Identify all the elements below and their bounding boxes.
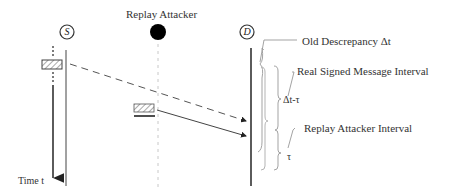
delta-minus-tau-label: Δt-τ xyxy=(283,95,300,105)
real-interval-label: Real Signed Message Interval xyxy=(297,66,429,77)
real-interval-leader xyxy=(288,72,294,96)
source-message-box xyxy=(42,60,62,69)
destination-label: D xyxy=(240,27,254,37)
attacker-dot-icon xyxy=(150,24,166,40)
inner-interval-brace xyxy=(274,66,281,170)
replay-message-arrow xyxy=(157,110,246,136)
attacker-label: Replay Attacker xyxy=(126,9,197,20)
replay-interval-leader xyxy=(288,128,295,148)
time-axis-label: Time t xyxy=(18,176,44,186)
tau-label: τ xyxy=(287,152,291,162)
old-discrepancy-brace xyxy=(258,48,263,152)
attacker-message-box xyxy=(134,104,154,112)
source-label: S xyxy=(60,27,74,37)
old-discrepancy-label: Old Descrepancy Δt xyxy=(302,36,391,47)
replay-interval-label: Replay Attacker Interval xyxy=(304,123,412,134)
